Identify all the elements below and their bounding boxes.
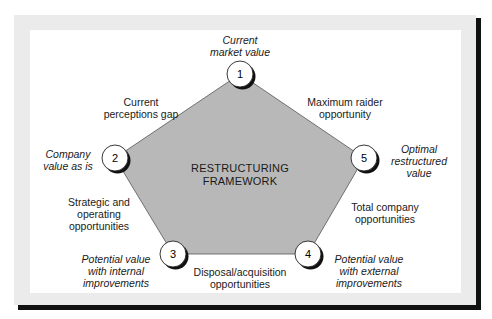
edge-4-5-label: Total company opportunities [345, 201, 425, 225]
node-1-label-line: Current [200, 34, 280, 46]
center-title: RESTRUCTURING FRAMEWORK [180, 162, 300, 188]
node-2-number: 2 [112, 152, 118, 164]
node-1-number: 1 [237, 68, 243, 80]
edge-label-line: Strategic and [64, 196, 134, 208]
edge-label-line: Current [96, 96, 186, 108]
edge-label-line: Disposal/acquisition [185, 266, 295, 278]
node-3-label-line: Potential value [74, 253, 158, 265]
node-5-label-line: value [384, 167, 454, 179]
node-3-label: Potential value with internal improvemen… [74, 253, 158, 289]
node-3-label-line: with internal [74, 265, 158, 277]
edge-label-line: Total company [345, 201, 425, 213]
node-2-label-line: Company [38, 148, 98, 160]
edge-3-4-label: Disposal/acquisition opportunities [185, 266, 295, 290]
edge-1-2-label: Current perceptions gap [96, 96, 186, 120]
node-5-number: 5 [361, 152, 367, 164]
node-3: 3 [160, 241, 186, 267]
node-1-label: Current market value [200, 34, 280, 58]
edge-2-3-label: Strategic and operating opportunities [64, 196, 134, 232]
center-title-line-1: RESTRUCTURING [180, 162, 300, 175]
edge-5-1-label: Maximum raider opportunity [302, 96, 388, 120]
node-4-label-line: Potential value [327, 253, 411, 265]
edge-label-line: operating [64, 208, 134, 220]
edge-label-line: perceptions gap [96, 108, 186, 120]
node-2-label-line: value as is [38, 160, 98, 172]
node-5-label-line: restructured [384, 155, 454, 167]
node-5-label-line: Optimal [384, 143, 454, 155]
node-4: 4 [295, 241, 321, 267]
node-2-label: Company value as is [38, 148, 98, 172]
edge-label-line: opportunities [185, 278, 295, 290]
node-2: 2 [102, 145, 128, 171]
node-5-label: Optimal restructured value [384, 143, 454, 179]
edge-label-line: Maximum raider [302, 96, 388, 108]
node-4-label: Potential value with external improvemen… [327, 253, 411, 289]
node-4-number: 4 [305, 248, 311, 260]
edge-label-line: opportunity [302, 108, 388, 120]
node-1-label-line: market value [200, 46, 280, 58]
node-4-label-line: with external [327, 265, 411, 277]
edge-label-line: opportunities [64, 220, 134, 232]
center-title-line-2: FRAMEWORK [180, 175, 300, 188]
node-3-number: 3 [170, 248, 176, 260]
node-3-label-line: improvements [74, 277, 158, 289]
node-1: 1 [227, 61, 253, 87]
node-4-label-line: improvements [327, 277, 411, 289]
node-5: 5 [351, 145, 377, 171]
edge-label-line: opportunities [345, 213, 425, 225]
